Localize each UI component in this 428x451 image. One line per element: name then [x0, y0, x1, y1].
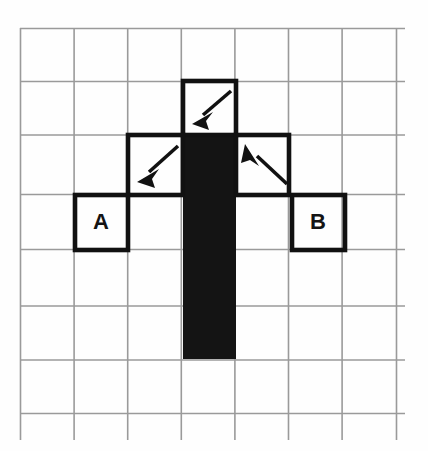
filled-vertical-bar — [183, 135, 236, 359]
arrow-down-left-top-icon — [192, 91, 231, 130]
outlined-cell-mid-right — [236, 135, 289, 195]
arrow-down-left-middle-icon — [137, 146, 178, 188]
arrow-up-left-icon — [241, 144, 287, 184]
cell-label-a: A — [93, 209, 109, 234]
figure-canvas: A B — [0, 0, 428, 451]
cell-label-b: B — [310, 209, 326, 234]
grid-figure: A B — [0, 0, 428, 451]
